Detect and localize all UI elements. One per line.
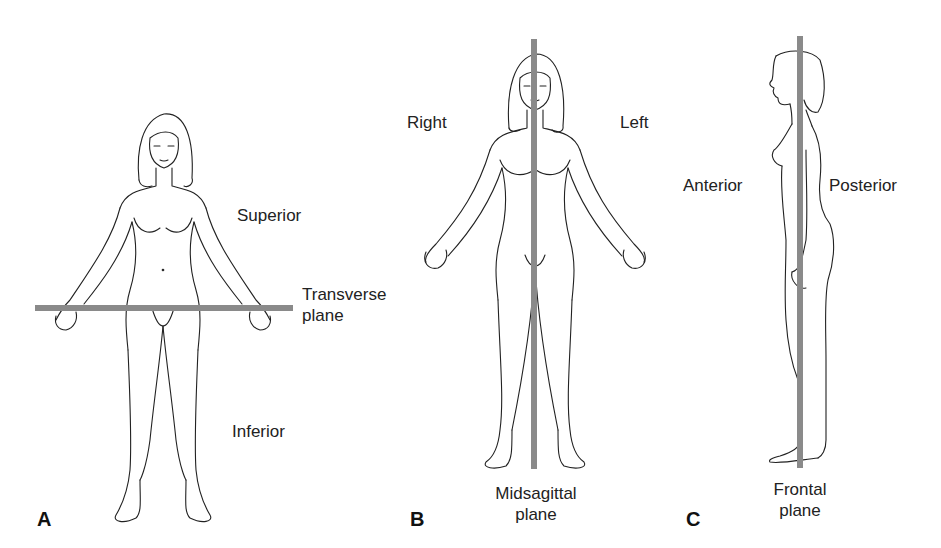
label-posterior: Posterior: [829, 176, 897, 196]
label-inferior: Inferior: [232, 422, 285, 442]
figure-a-body: [55, 114, 270, 522]
frontal-plane-bar: [797, 36, 803, 468]
label-frontal-plane-line2: plane: [760, 501, 840, 521]
label-midsagittal-plane-line1: Midsagittal: [484, 484, 588, 504]
label-transverse-plane-line1: Transverse: [302, 285, 386, 305]
panel-letter-b: B: [410, 508, 424, 531]
label-left: Left: [620, 113, 648, 133]
label-anterior: Anterior: [683, 176, 743, 196]
label-frontal-plane-line1: Frontal: [760, 480, 840, 500]
panel-letter-c: C: [686, 508, 700, 531]
panel-letter-a: A: [37, 508, 51, 531]
transverse-plane-bar: [35, 305, 293, 311]
label-right: Right: [407, 113, 447, 133]
anatomical-planes-illustration: [0, 0, 941, 548]
label-midsagittal-plane-line2: plane: [484, 505, 588, 525]
label-superior: Superior: [237, 206, 301, 226]
label-transverse-plane-line2: plane: [302, 306, 344, 326]
midsagittal-plane-bar: [531, 39, 537, 469]
